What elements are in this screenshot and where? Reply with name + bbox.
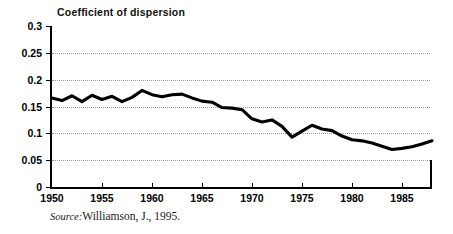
x-axis-tick-label: 1970 xyxy=(240,192,263,204)
x-axis-tick-label: 1965 xyxy=(190,192,213,204)
x-axis-tick-label: 1960 xyxy=(140,192,163,204)
x-axis-tick-mark xyxy=(352,183,353,188)
source-label: Source: xyxy=(50,211,82,222)
y-axis-tick-label: 0.25 xyxy=(0,47,42,59)
x-axis-tick-label: 1975 xyxy=(290,192,313,204)
plot-right-edge xyxy=(430,160,432,189)
x-axis-tick-mark xyxy=(302,183,303,188)
y-axis-tick-label: 0.2 xyxy=(0,74,42,86)
x-axis-tick-mark xyxy=(102,183,103,188)
x-axis-tick-label: 1955 xyxy=(90,192,113,204)
y-axis-tick-label: 0.3 xyxy=(0,20,42,32)
y-axis-tick-mark xyxy=(46,80,51,81)
x-axis-tick-mark xyxy=(252,183,253,188)
x-axis-line xyxy=(50,187,432,189)
chart-figure: Coefficient of dispersion 00.050.10.150.… xyxy=(0,0,453,234)
y-axis-tick-label: 0.1 xyxy=(0,127,42,139)
x-axis-tick-mark xyxy=(402,183,403,188)
x-axis-tick-label: 1985 xyxy=(390,192,413,204)
y-axis-tick-label: 0.15 xyxy=(0,101,42,113)
y-axis-tick-mark xyxy=(46,53,51,54)
y-axis-tick-label: 0 xyxy=(0,181,42,193)
y-axis-tick-mark xyxy=(46,107,51,108)
chart-title: Coefficient of dispersion xyxy=(57,6,185,18)
y-axis-tick-mark xyxy=(46,133,51,134)
y-axis-tick-mark xyxy=(46,160,51,161)
y-axis-tick-mark xyxy=(46,187,51,188)
series-line-chart xyxy=(50,26,432,189)
x-axis-tick-label: 1980 xyxy=(340,192,363,204)
x-axis-tick-label: 1950 xyxy=(40,192,63,204)
plot-area: 00.050.10.150.20.250.3 19501955196019651… xyxy=(50,26,432,189)
source-note: Source:Williamson, J., 1995. xyxy=(50,210,180,222)
x-axis-tick-mark xyxy=(202,183,203,188)
y-axis-line xyxy=(50,26,52,189)
source-text: Williamson, J., 1995. xyxy=(82,210,180,222)
y-axis-tick-mark xyxy=(46,26,51,27)
series-path-coefficient-of-dispersion xyxy=(52,90,432,149)
y-axis-tick-label: 0.05 xyxy=(0,154,42,166)
x-axis-tick-mark xyxy=(152,183,153,188)
